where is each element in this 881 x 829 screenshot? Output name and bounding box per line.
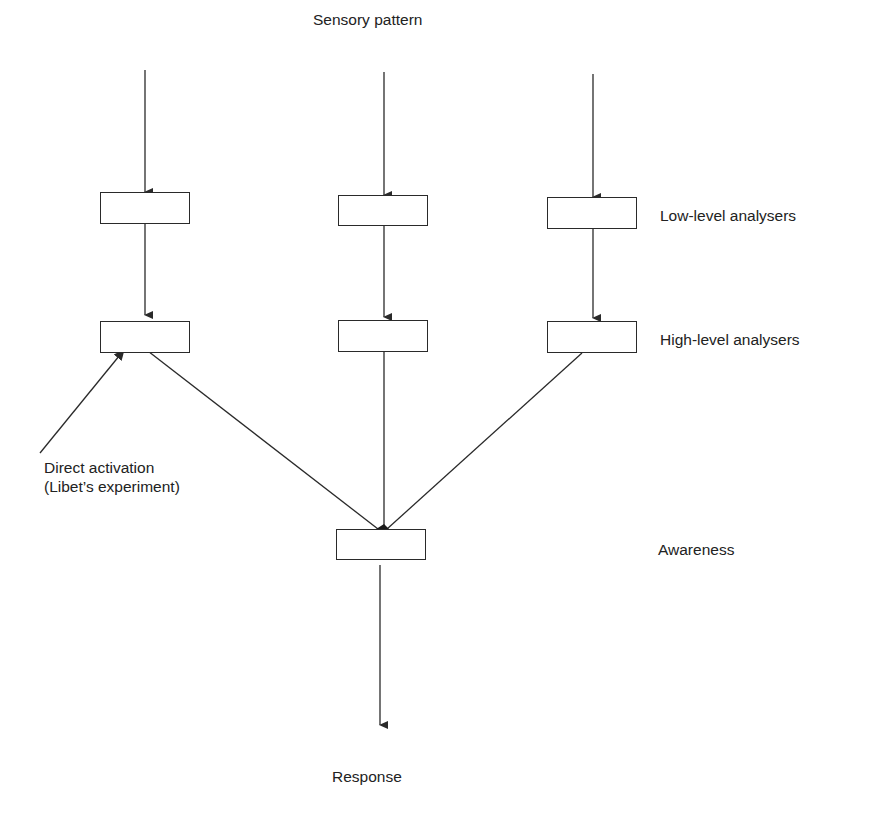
awareness-label: Awareness [658,540,734,559]
awareness-box [336,529,426,560]
high-level-label: High-level analysers [660,330,800,349]
awareness-flow-diagram: Sensory pattern Low-level analysers High… [0,0,881,829]
libet-experiment-label: (Libet’s experiment) [44,477,180,496]
low-level-box-right [547,197,637,229]
diagram-connectors [0,0,881,829]
input-label: Sensory pattern [313,10,422,29]
low-level-box-left [100,192,190,224]
direct-activation-label: Direct activation [44,458,154,477]
high-level-box-center [338,320,428,352]
low-level-box-center [338,195,428,226]
high-level-box-left [100,321,190,353]
low-level-label: Low-level analysers [660,206,796,225]
high-level-box-right [547,321,637,353]
output-label: Response [332,767,402,786]
